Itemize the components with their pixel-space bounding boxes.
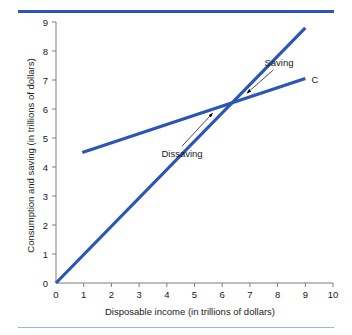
x-tick-label: 5 xyxy=(192,289,197,300)
y-tick-label: 9 xyxy=(43,17,48,28)
series-label: C xyxy=(312,74,319,85)
y-tick-label: 4 xyxy=(43,162,48,173)
x-tick-label: 7 xyxy=(247,289,252,300)
x-axis-title: Disposable income (in trillions of dolla… xyxy=(40,306,340,317)
y-tick-label: 0 xyxy=(43,278,48,289)
annotation-label: Saving xyxy=(264,57,293,68)
x-tick-label: 9 xyxy=(303,289,308,300)
x-tick-label: 1 xyxy=(81,289,86,300)
y-tick-label: 2 xyxy=(43,220,48,231)
y-tick-label: 7 xyxy=(43,75,48,86)
x-tick-label: 4 xyxy=(164,289,169,300)
x-tick-label: 0 xyxy=(53,289,58,300)
x-tick-label: 6 xyxy=(220,289,225,300)
x-tick-label: 8 xyxy=(275,289,280,300)
bottom-divider-rule xyxy=(18,327,334,328)
chart-figure: Consumption and saving (in trillions of … xyxy=(0,0,352,335)
plot-canvas: 0123456789012345678910 C SavingDissaving xyxy=(0,0,352,335)
y-tick-label: 6 xyxy=(43,104,48,115)
y-tick-label: 8 xyxy=(43,46,48,57)
annotation-label: Dissaving xyxy=(161,148,202,159)
x-tick-label: 10 xyxy=(328,289,339,300)
y-tick-label: 3 xyxy=(43,191,48,202)
y-tick-label: 5 xyxy=(43,133,48,144)
y-tick-label: 1 xyxy=(43,249,48,260)
x-tick-label: 2 xyxy=(109,289,114,300)
x-tick-label: 3 xyxy=(136,289,141,300)
